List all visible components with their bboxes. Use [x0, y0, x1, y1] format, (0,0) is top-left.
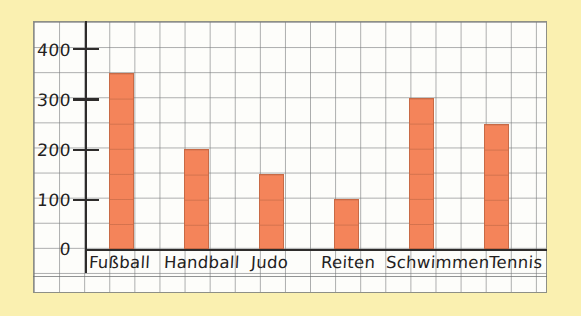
- chart-figure: 400 300 200 100 0 Fußball Handball Judo …: [0, 0, 581, 316]
- x-axis-baseline: [85, 249, 547, 251]
- y-tick-mark-100: [73, 199, 99, 201]
- category-label-schwimmen: Schwimmen: [386, 253, 491, 272]
- y-tick-label-200: 200: [24, 140, 71, 160]
- plot-area: 400 300 200 100 0 Fußball Handball Judo …: [33, 21, 547, 293]
- y-tick-mark-200: [73, 149, 99, 151]
- y-tick-mark-300: [73, 98, 99, 100]
- category-label-rule: [33, 276, 547, 277]
- category-label-fussball: Fußball: [89, 253, 151, 272]
- bar-handball: [184, 149, 209, 249]
- y-tick-label-100: 100: [24, 190, 71, 210]
- category-label-tennis: Tennis: [489, 253, 543, 272]
- bar-schwimmen: [409, 98, 434, 249]
- category-label-judo: Judo: [251, 253, 289, 272]
- category-label-handball: Handball: [164, 253, 241, 272]
- y-tick-label-400: 400: [24, 40, 71, 60]
- bar-tennis: [484, 124, 509, 250]
- y-axis-line: [85, 21, 87, 273]
- y-tick-label-0: 0: [24, 239, 71, 259]
- y-tick-mark-400: [73, 48, 99, 50]
- category-label-reiten: Reiten: [321, 253, 376, 272]
- y-tick-label-300: 300: [24, 90, 71, 110]
- bar-reiten: [334, 199, 359, 249]
- bar-judo: [259, 174, 284, 249]
- bar-fussball: [109, 73, 134, 249]
